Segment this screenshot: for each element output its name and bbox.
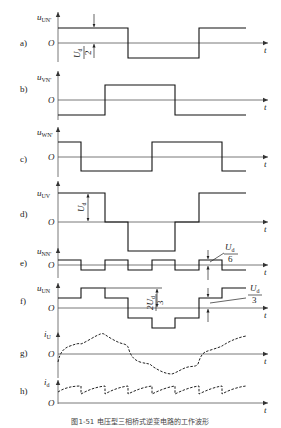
panel-c: c) uWN' O t: [20, 127, 268, 177]
ylabel-f: uUN: [37, 283, 51, 294]
panel-tag-c: c): [20, 154, 27, 164]
svg-text:6: 6: [228, 254, 233, 264]
svg-text:3: 3: [252, 295, 257, 305]
panel-tag-d: d): [20, 209, 28, 219]
t-label-g: t: [264, 356, 267, 366]
origin-label-e: O: [48, 260, 55, 270]
panel-b: b) uVN' O t: [20, 71, 268, 120]
panel-tag-f: f): [20, 296, 26, 306]
panel-a: a) uUN' O t Ud 2: [20, 12, 268, 62]
annotation-d: Ud: [76, 203, 87, 213]
annotation-e: Ud 6: [224, 242, 238, 264]
ylabel-d: uUV: [37, 188, 51, 199]
panel-tag-a: a): [20, 38, 27, 48]
svg-text:Ud: Ud: [76, 203, 87, 213]
origin-label-d: O: [48, 217, 55, 227]
svg-text:3: 3: [155, 300, 165, 305]
figure-caption: 图1-51 电压型三相桥式逆变电路的工作波形: [71, 417, 208, 426]
leader-line-f: [210, 298, 246, 303]
panel-tag-h: h): [20, 386, 28, 396]
panel-tag-b: b): [20, 84, 28, 94]
svg-text:Ud: Ud: [225, 242, 235, 253]
panel-tag-g: g): [20, 348, 28, 358]
waveform-i-d: [58, 386, 246, 394]
origin-label-c: O: [48, 152, 55, 162]
annotation-f-2ud3: 2Ud 3: [145, 294, 165, 311]
origin-label-b: O: [48, 95, 55, 105]
panel-tag-e: e): [20, 258, 27, 268]
ylabel-h: id: [44, 377, 50, 388]
ylabel-c: uWN': [37, 127, 53, 138]
annotation-f-ud3: Ud 3: [248, 283, 262, 305]
origin-label-a: O: [48, 38, 55, 48]
origin-label-f: O: [48, 303, 55, 313]
ylabel-b: uVN': [37, 72, 51, 83]
waveform-figure: a) uUN' O t Ud 2 b) uVN' O t c) uWN' O t: [0, 0, 281, 428]
annotation-a: Ud 2: [72, 46, 93, 59]
panel-g: g) iU O t: [20, 329, 268, 378]
t-label-h: t: [264, 405, 267, 415]
panel-h: h) id O t: [20, 377, 268, 415]
ylabel-g: iU: [44, 329, 52, 340]
panel-e: e) uNN' O t Ud 6: [20, 242, 268, 280]
t-label-f: t: [264, 310, 267, 320]
t-label-d: t: [264, 224, 267, 234]
panel-f: f) uUN O t 2Ud 3 Ud 3: [20, 283, 268, 332]
origin-label-g: O: [48, 349, 55, 359]
svg-text:Ud: Ud: [250, 283, 260, 294]
svg-text:Ud: Ud: [72, 49, 83, 59]
t-label-a: t: [264, 45, 267, 55]
origin-label-h: O: [48, 398, 55, 408]
t-label-b: t: [264, 102, 267, 112]
waveform-u-WN-prime: [58, 142, 246, 171]
ylabel-a: uUN': [37, 12, 51, 23]
t-label-e: t: [264, 267, 267, 277]
ylabel-e: uNN': [37, 246, 51, 257]
svg-text:2: 2: [83, 51, 93, 56]
t-label-c: t: [264, 159, 267, 169]
